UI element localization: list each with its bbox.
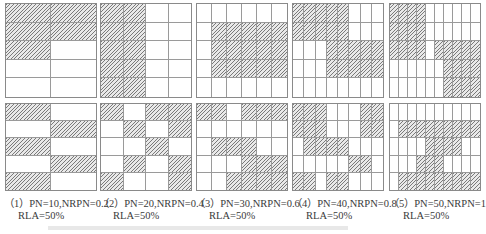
hatched-cell: [101, 23, 124, 42]
hatched-cell: [327, 173, 338, 190]
panel-label: （4）PN=40,NRPN=0.8: [292, 198, 397, 209]
empty-cell: [453, 4, 462, 23]
hatched-cell: [417, 23, 426, 42]
empty-cell: [327, 78, 338, 97]
panel-label: （2）PN=20,NRPN=0.4: [99, 198, 204, 209]
empty-cell: [462, 156, 471, 173]
empty-cell: [304, 78, 315, 97]
empty-cell: [390, 60, 399, 79]
hatched-cell: [338, 173, 349, 190]
pattern-grid-4-top: [292, 3, 384, 98]
empty-cell: [316, 78, 327, 97]
empty-cell: [349, 78, 360, 97]
hatched-cell: [272, 156, 287, 173]
empty-cell: [372, 23, 383, 42]
empty-cell: [146, 41, 169, 60]
hatched-cell: [417, 173, 426, 190]
empty-cell: [338, 121, 349, 138]
hatched-cell: [372, 104, 383, 121]
empty-cell: [327, 121, 338, 138]
empty-cell: [197, 138, 212, 155]
empty-cell: [51, 41, 96, 60]
hatched-cell: [6, 4, 51, 23]
hatched-cell: [272, 60, 287, 79]
hatched-cell: [327, 4, 338, 23]
pattern-grid-3-bottom: [196, 103, 288, 191]
hatched-cell: [101, 78, 124, 97]
hatched-cell: [124, 41, 147, 60]
hatched-cell: [304, 138, 315, 155]
empty-cell: [197, 60, 212, 79]
empty-cell: [471, 104, 480, 121]
hatched-cell: [124, 4, 147, 23]
hatched-cell: [316, 138, 327, 155]
empty-cell: [293, 60, 304, 79]
empty-cell: [453, 104, 462, 121]
hatched-cell: [212, 60, 227, 79]
hatched-cell: [417, 41, 426, 60]
hatched-cell: [426, 138, 435, 155]
hatched-cell: [462, 121, 471, 138]
empty-cell: [124, 138, 147, 155]
hatched-cell: [426, 173, 435, 190]
empty-cell: [227, 78, 242, 97]
empty-cell: [338, 104, 349, 121]
empty-cell: [304, 156, 315, 173]
empty-cell: [6, 78, 51, 97]
hatched-cell: [316, 104, 327, 121]
hatched-cell: [408, 121, 417, 138]
empty-cell: [444, 23, 453, 42]
hatched-cell: [124, 60, 147, 79]
empty-cell: [316, 41, 327, 60]
hatched-cell: [453, 173, 462, 190]
empty-cell: [390, 138, 399, 155]
empty-cell: [390, 78, 399, 97]
empty-cell: [197, 156, 212, 173]
empty-cell: [197, 121, 212, 138]
hatched-cell: [101, 104, 124, 121]
empty-cell: [426, 78, 435, 97]
empty-cell: [435, 4, 444, 23]
hatched-cell: [471, 121, 480, 138]
hatched-cell: [390, 41, 399, 60]
panel-label: （3）PN=30,NRPN=0.6: [195, 198, 300, 209]
hatched-cell: [471, 60, 480, 79]
hatched-cell: [426, 121, 435, 138]
hatched-cell: [471, 78, 480, 97]
empty-cell: [212, 4, 227, 23]
hatched-cell: [6, 41, 51, 60]
hatched-cell: [197, 104, 212, 121]
hatched-cell: [101, 41, 124, 60]
hatched-cell: [316, 121, 327, 138]
hatched-cell: [212, 23, 227, 42]
pattern-grid-2-top: [100, 3, 192, 98]
pattern-grid-4-bottom: [292, 103, 384, 191]
hatched-cell: [101, 4, 124, 23]
hatched-cell: [408, 41, 417, 60]
empty-cell: [242, 121, 257, 138]
empty-cell: [146, 121, 169, 138]
empty-cell: [227, 104, 242, 121]
empty-cell: [257, 4, 272, 23]
hatched-cell: [242, 23, 257, 42]
empty-cell: [349, 138, 360, 155]
hatched-cell: [435, 41, 444, 60]
empty-cell: [399, 138, 408, 155]
empty-cell: [435, 60, 444, 79]
panel-rla: RLA=50%: [389, 210, 486, 222]
empty-cell: [417, 138, 426, 155]
hatched-cell: [408, 4, 417, 23]
hatched-cell: [257, 173, 272, 190]
hatched-cell: [212, 138, 227, 155]
pattern-grid-1-top: [5, 3, 97, 98]
panel-caption-3: （3）PN=30,NRPN=0.6RLA=50%: [195, 198, 300, 222]
hatched-cell: [169, 121, 192, 138]
pattern-grid-1-bottom: [5, 103, 97, 191]
empty-cell: [361, 23, 372, 42]
pattern-grid-2-bottom: [100, 103, 192, 191]
hatched-cell: [6, 173, 51, 190]
empty-cell: [435, 104, 444, 121]
empty-cell: [257, 121, 272, 138]
hatched-cell: [272, 104, 287, 121]
empty-cell: [304, 41, 315, 60]
